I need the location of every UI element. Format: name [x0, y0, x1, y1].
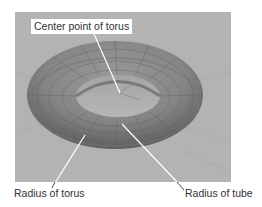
- torus-radius-label: Radius of torus: [14, 187, 85, 199]
- tube-radius-label: Radius of tube: [185, 187, 253, 199]
- center-point-label: Center point of torus: [31, 19, 132, 34]
